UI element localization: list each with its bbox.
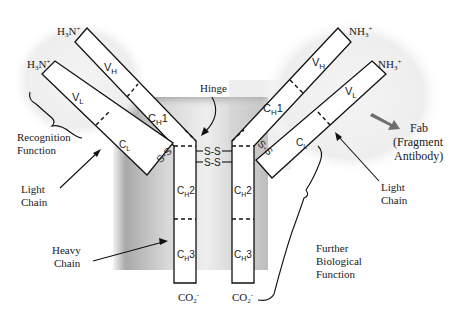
light-chain-right-line2: Chain	[381, 194, 408, 206]
light-chain-left-annotation: Light Chain	[21, 149, 101, 208]
heavy-chain-line2: Chain	[54, 257, 81, 269]
further-line3: Function	[316, 268, 356, 280]
antibody-diagram: VH VL CH1 CL CH2 CH3 VH VL CH1 CL CH2 CH…	[0, 0, 459, 327]
light-chain-left-line1: Light	[21, 183, 45, 195]
hinge-ss-lower: S-S	[204, 157, 221, 168]
light-chain-left-line2: Chain	[21, 196, 48, 208]
further-line2: Biological	[316, 255, 362, 267]
right-c-terminus: CO2-	[232, 291, 254, 305]
fab-label-line3: Antibody)	[394, 149, 443, 163]
heavy-chain-line1: Heavy	[52, 244, 81, 256]
recognition-label-line1: Recognition	[17, 131, 71, 143]
fab-label-line1: Fab	[410, 121, 428, 135]
hinge-label: Hinge	[200, 82, 227, 94]
light-chain-left-arrow	[60, 152, 98, 188]
fab-label-line2: (Fragment	[393, 135, 444, 149]
left-c-terminus: CO2-	[178, 291, 200, 305]
further-line1: Further	[316, 242, 349, 254]
light-chain-right-line1: Light	[381, 181, 405, 193]
hinge-ss-upper: S-S	[204, 146, 221, 157]
recognition-label-line2: Function	[17, 144, 57, 156]
